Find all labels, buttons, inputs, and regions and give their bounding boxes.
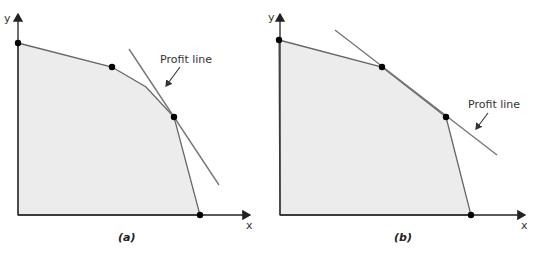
panel-a: Profit line y x (a) (4, 12, 253, 244)
y-axis-label: y (4, 12, 11, 25)
vertex (15, 40, 21, 46)
vertex (468, 212, 474, 218)
profit-line-label: Profit line (468, 98, 520, 111)
x-axis-label: x (246, 219, 253, 232)
vertex (197, 212, 203, 218)
feasible-region (279, 40, 471, 215)
y-axis-label: y (268, 11, 275, 24)
panel-b: Profit line y x (b) (268, 11, 528, 244)
diagram-canvas: Profit line y x (a) Profit line y x (b) (0, 0, 536, 257)
feasible-region (18, 43, 200, 215)
profit-line-label: Profit line (160, 53, 212, 66)
x-axis-label: x (521, 219, 528, 232)
vertex (276, 37, 282, 43)
vertex (109, 64, 115, 70)
arrow-icon (476, 113, 488, 129)
caption: (a) (118, 231, 135, 244)
caption: (b) (394, 231, 412, 244)
vertex-optimal (379, 64, 385, 70)
vertex-optimal (443, 114, 449, 120)
arrow-icon (166, 67, 180, 86)
vertex-optimal (171, 114, 177, 120)
